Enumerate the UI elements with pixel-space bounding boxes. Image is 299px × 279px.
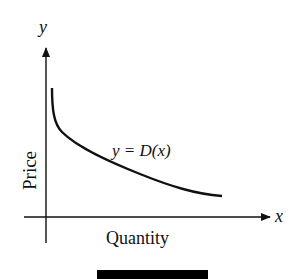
demand-chart: y x Price Quantity y = D(x) <box>0 0 299 279</box>
x-axis-label: Quantity <box>106 228 169 248</box>
y-axis-symbol: y <box>37 17 47 37</box>
y-axis-label: Price <box>19 151 40 190</box>
x-axis-symbol: x <box>274 206 283 226</box>
redaction-bar <box>97 270 208 279</box>
curve-label: y = D(x) <box>110 141 171 160</box>
